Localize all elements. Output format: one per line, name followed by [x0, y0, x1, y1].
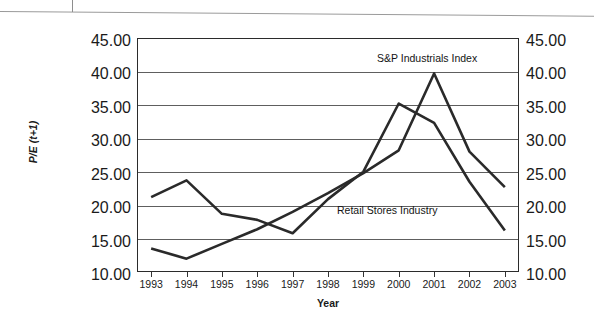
y-axis-right: 45.0040.0035.0030.0025.0020.0015.0010.00: [526, 38, 586, 272]
x-tick-label: 1999: [352, 278, 375, 290]
x-tick-label: 2000: [387, 278, 410, 290]
x-tick-mark: [363, 272, 364, 277]
x-tick-label: 1995: [210, 278, 233, 290]
y-tick-label-left: 25.00: [91, 166, 131, 184]
x-tick-label: 1993: [139, 278, 162, 290]
y-tick-label-left: 20.00: [91, 199, 131, 217]
x-tick-label: 2001: [422, 278, 445, 290]
x-axis-title: Year: [137, 297, 519, 309]
x-tick-mark: [257, 272, 258, 277]
annotation-sp-industrials-index: S&P Industrials Index: [377, 52, 477, 64]
x-tick-label: 1998: [316, 278, 339, 290]
x-tick-mark: [187, 272, 188, 277]
x-tick-mark: [469, 272, 470, 277]
x-tick-mark: [328, 272, 329, 277]
y-tick-label-right: 20.00: [526, 199, 566, 217]
y-axis-title-text: P/E (t+1): [27, 121, 39, 163]
y-axis-left: 45.0040.0035.0030.0025.0020.0015.0010.00: [78, 38, 131, 272]
y-tick-label-left: 10.00: [91, 266, 131, 284]
x-tick-mark: [434, 272, 435, 277]
x-axis-title-text: Year: [317, 297, 339, 309]
y-tick-label-right: 40.00: [526, 65, 566, 83]
y-tick-label-right: 15.00: [526, 233, 566, 251]
x-tick-label: 2003: [493, 278, 516, 290]
x-axis-ticks: [137, 272, 519, 277]
y-tick-label-right: 30.00: [526, 132, 566, 150]
series-line-retail-stores: [151, 104, 505, 234]
y-tick-label-right: 10.00: [526, 266, 566, 284]
x-tick-mark: [222, 272, 223, 277]
y-axis-title: P/E (t+1): [27, 87, 39, 197]
y-tick-label-left: 45.00: [91, 32, 131, 50]
y-tick-label-right: 35.00: [526, 99, 566, 117]
x-tick-label: 1997: [281, 278, 304, 290]
x-tick-mark: [505, 272, 506, 277]
page-rule-horizontal: [0, 11, 594, 17]
x-axis-labels: 1993199419951996199719981999200020012002…: [137, 278, 519, 292]
x-tick-label: 1996: [246, 278, 269, 290]
y-tick-label-left: 35.00: [91, 99, 131, 117]
series-lines: [137, 38, 519, 272]
series-line-sp-industrials: [151, 73, 505, 258]
line-chart-figure: P/E (t+1) 45.0040.0035.0030.0025.0020.00…: [0, 18, 594, 314]
x-tick-mark: [293, 272, 294, 277]
y-tick-label-left: 40.00: [91, 65, 131, 83]
y-tick-label-right: 45.00: [526, 32, 566, 50]
page-rule-vertical: [72, 0, 73, 12]
x-tick-mark: [399, 272, 400, 277]
x-tick-label: 2002: [458, 278, 481, 290]
annotation-retail-stores-industry: Retail Stores Industry: [337, 204, 437, 216]
y-tick-label-left: 30.00: [91, 132, 131, 150]
x-tick-label: 1994: [175, 278, 198, 290]
y-tick-label-left: 15.00: [91, 233, 131, 251]
x-tick-mark: [151, 272, 152, 277]
y-tick-label-right: 25.00: [526, 166, 566, 184]
